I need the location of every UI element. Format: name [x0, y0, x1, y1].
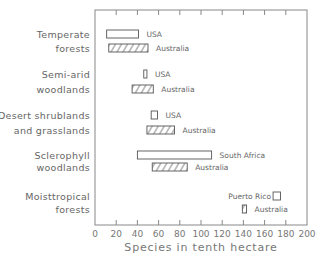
x-tick-label: 100 [192, 229, 209, 239]
bar-region-label: Australia [183, 126, 216, 135]
category-label: Moisttropical [25, 191, 90, 202]
hatched-range-bar [109, 44, 148, 52]
bar-region-label: USA [166, 111, 182, 120]
x-tick-label: 40 [132, 229, 144, 239]
bar-region-label: Australia [255, 205, 288, 214]
open-range-bar [107, 30, 139, 38]
bar-region-label: USA [155, 70, 171, 79]
x-tick-label: 120 [214, 229, 231, 239]
category-label: forests [56, 204, 90, 215]
category-label: and grasslands [14, 125, 90, 136]
x-tick-label: 180 [277, 229, 294, 239]
x-tick-label: 20 [110, 229, 122, 239]
category-label: Desert shrublands [0, 110, 90, 121]
open-range-bar [151, 111, 157, 119]
x-tick-label: 200 [298, 229, 315, 239]
x-axis-tick-labels: 020406080100120140160180200 [92, 229, 316, 239]
category-label: Sclerophyll [35, 150, 91, 161]
hatched-range-bar [132, 85, 153, 93]
bar-region-label: USA [146, 30, 162, 39]
species-range-chart: 020406080100120140160180200 Species in t… [0, 0, 326, 266]
bar-region-label: Australia [161, 85, 194, 94]
category-label: forests [56, 43, 90, 54]
x-tick-label: 80 [174, 229, 186, 239]
range-bars: USAAustraliaUSAAustraliaUSAAustraliaSout… [107, 30, 288, 214]
x-tick-label: 160 [256, 229, 273, 239]
bar-region-label: Australia [195, 163, 228, 172]
x-tick-label: 140 [235, 229, 252, 239]
category-label: woodlands [36, 162, 90, 173]
bar-region-label: Australia [156, 44, 189, 53]
hatched-range-bar [152, 163, 187, 171]
bar-region-label: Puerto Rico [228, 192, 271, 201]
category-label: woodlands [36, 84, 90, 95]
open-range-bar [137, 151, 211, 159]
hatched-range-bar [242, 205, 246, 213]
category-labels: TemperateforestsSemi-aridwoodlandsDesert… [0, 29, 90, 215]
x-tick-label: 60 [153, 229, 165, 239]
category-label: Semi-arid [42, 69, 90, 80]
x-axis-title: Species in tenth hectare [124, 241, 277, 254]
x-tick-label: 0 [92, 229, 98, 239]
open-range-bar [144, 70, 147, 78]
open-range-bar [273, 192, 280, 200]
category-label: Temperate [36, 29, 90, 40]
hatched-range-bar [147, 126, 175, 134]
bar-region-label: South Africa [220, 151, 266, 160]
